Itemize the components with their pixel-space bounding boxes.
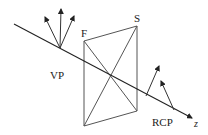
waveplate-diagram: VP F S RCP z [0, 0, 208, 135]
vp-vector-left-icon [45, 17, 60, 48]
vp-label: VP [50, 69, 64, 81]
slow-axis-label: S [134, 12, 140, 24]
plate-diagonal-slow [84, 26, 137, 126]
wave-plate [84, 26, 137, 126]
rcp-vector-1-icon [146, 66, 159, 96]
fast-axis-label: F [81, 27, 87, 39]
vp-vector-up-icon [60, 9, 61, 48]
rcp-label: RCP [152, 116, 173, 128]
rcp-vectors [146, 66, 174, 110]
z-axis-label: z [193, 118, 198, 129]
z-axis-arrow [14, 24, 192, 118]
vp-vector-right-icon [60, 16, 74, 48]
